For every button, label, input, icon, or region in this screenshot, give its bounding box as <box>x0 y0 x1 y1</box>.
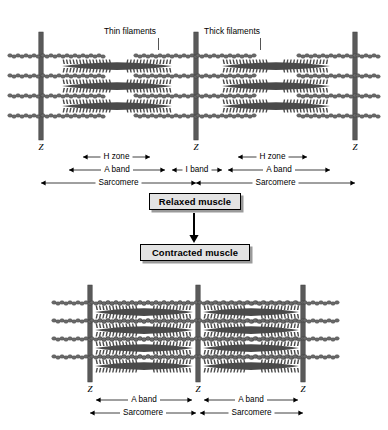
sarcomere-diagram: Thin filamentsThick filamentsZZZZZZH zon… <box>0 0 388 430</box>
z-line-label: Z <box>300 384 305 394</box>
thin-filament <box>356 54 381 59</box>
z-line-contracted-2 <box>196 285 200 382</box>
measure-label: A band <box>104 166 130 174</box>
thick-filament <box>203 342 299 355</box>
thin-filament <box>303 301 340 306</box>
thick-filament <box>203 324 299 337</box>
thin-filament <box>41 54 106 59</box>
z-line-contracted-1 <box>88 285 92 382</box>
callout-label: Thick filaments <box>204 27 260 35</box>
thin-filament <box>134 74 199 79</box>
thin-filament <box>356 114 381 119</box>
callout-leader-line <box>260 38 261 50</box>
thin-filament <box>98 319 199 324</box>
relaxed-muscle-box: Relaxed muscle <box>149 193 241 210</box>
thin-filament <box>8 74 41 79</box>
thick-filament <box>203 306 299 319</box>
measure-label: A band <box>266 166 292 174</box>
thin-filament <box>8 94 41 99</box>
thin-filament <box>52 355 93 360</box>
measure-label: A band <box>238 396 264 404</box>
thin-filament <box>8 54 41 59</box>
thick-filament <box>95 342 193 355</box>
callout-leader-line <box>158 38 159 50</box>
thin-filament <box>41 114 106 119</box>
thin-filament <box>52 337 93 342</box>
thick-filament <box>95 324 193 337</box>
thin-filament <box>134 94 199 99</box>
thin-filament <box>41 94 106 99</box>
measure-label: A band <box>131 396 157 404</box>
thick-filament <box>222 100 330 113</box>
thin-filament <box>297 114 358 119</box>
thin-filament <box>41 74 106 79</box>
thick-filament <box>62 80 172 93</box>
thick-filament <box>222 80 330 93</box>
thick-filament <box>62 100 172 113</box>
measure-label: Sarcomere <box>255 179 295 187</box>
thick-filament <box>222 60 330 73</box>
thin-filament <box>297 94 358 99</box>
thin-filament <box>303 337 340 342</box>
thin-filament <box>303 355 340 360</box>
thick-filament <box>62 60 172 73</box>
z-line-contracted-3 <box>301 285 305 382</box>
thick-filament <box>95 306 193 319</box>
thin-filament <box>98 337 199 342</box>
thick-filament <box>203 360 299 373</box>
z-line-label: Z <box>193 142 198 152</box>
thin-filament <box>134 54 199 59</box>
z-line-label: Z <box>352 142 357 152</box>
thin-filament <box>356 94 381 99</box>
z-line-relaxed-3 <box>353 32 357 140</box>
filament-canvas <box>0 0 388 430</box>
thin-filament <box>196 74 257 79</box>
thin-filament <box>134 114 199 119</box>
thin-filament <box>196 94 257 99</box>
contracted-muscle-box: Contracted muscle <box>140 244 250 261</box>
thin-filament <box>297 74 358 79</box>
thin-filament <box>196 114 257 119</box>
callout-label: Thin filaments <box>104 27 156 35</box>
z-line-label: Z <box>38 142 43 152</box>
z-line-label: Z <box>87 384 92 394</box>
thin-filament <box>52 301 93 306</box>
thick-filament <box>95 360 193 373</box>
thin-filament <box>98 355 199 360</box>
z-line-relaxed-2 <box>194 32 198 140</box>
measure-label: H zone <box>104 153 130 161</box>
thin-filament <box>52 319 93 324</box>
measure-label: H zone <box>260 153 286 161</box>
measure-label: Sarcomere <box>231 409 271 417</box>
thin-filament <box>98 301 199 306</box>
measure-label: I band <box>186 166 209 174</box>
thin-filament <box>297 54 358 59</box>
thin-filament <box>8 114 41 119</box>
measure-label: Sarcomere <box>123 409 163 417</box>
measure-label: Sarcomere <box>98 179 138 187</box>
thin-filament <box>196 54 257 59</box>
thin-filament <box>356 74 381 79</box>
z-line-label: Z <box>195 384 200 394</box>
z-line-relaxed-1 <box>39 32 43 140</box>
thin-filament <box>303 319 340 324</box>
